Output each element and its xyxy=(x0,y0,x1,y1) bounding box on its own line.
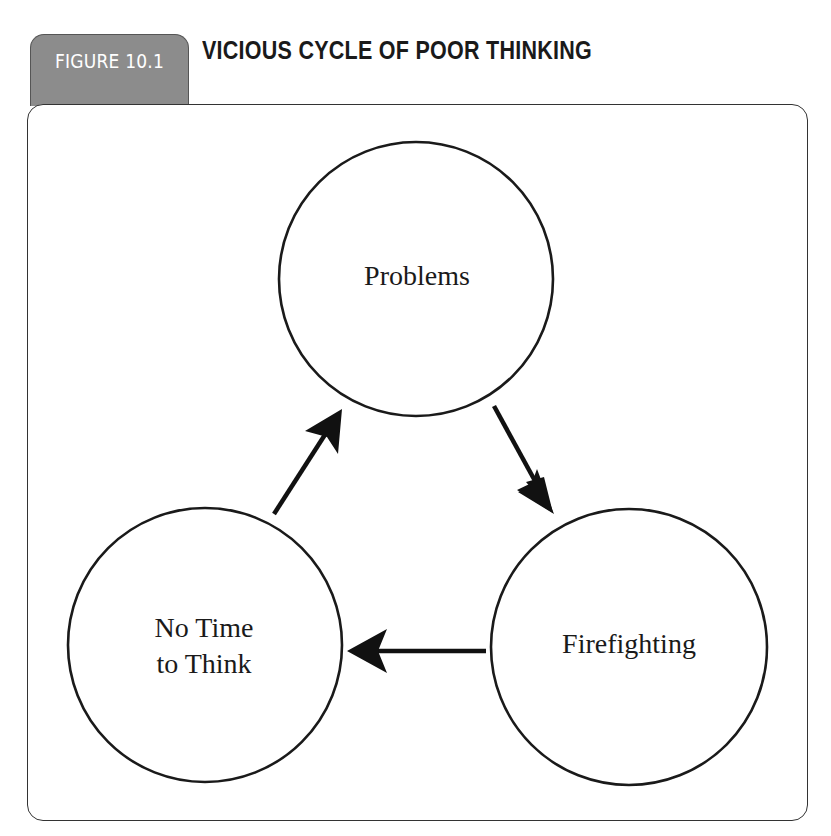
node-no-time-label-line1: No Time xyxy=(155,609,254,646)
cycle-diagram xyxy=(0,0,831,836)
node-problems-label: Problems xyxy=(364,257,470,294)
arrow-no-time-to-problems xyxy=(274,409,342,514)
arrow-firefighting-to-no-time xyxy=(347,629,486,673)
node-firefighting-label: Firefighting xyxy=(562,625,696,662)
arrow-problems-to-firefighting xyxy=(494,406,554,514)
node-no-time-label-line2: to Think xyxy=(156,645,251,682)
